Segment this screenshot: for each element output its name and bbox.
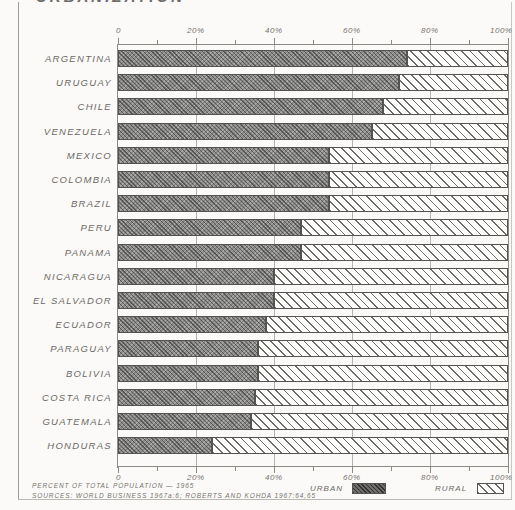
- country-label-panama: PANAMA: [65, 247, 112, 258]
- bar-segment-urban: [118, 365, 258, 382]
- bar-row: [118, 195, 508, 212]
- bar-segment-rural: [329, 147, 508, 164]
- axis-tick: [157, 40, 158, 44]
- bar-row: [118, 219, 508, 236]
- bar-segment-rural: [372, 123, 509, 140]
- country-label-uruguay: URUGUAY: [56, 77, 112, 88]
- axis-tick: [313, 40, 314, 44]
- bar-segment-rural: [258, 365, 508, 382]
- axis-tick-label: 20%: [187, 473, 205, 482]
- bar-row: [118, 268, 508, 285]
- bar-segment-urban: [118, 316, 266, 333]
- bar-segment-rural: [407, 50, 508, 67]
- bar-row: [118, 74, 508, 91]
- country-label-chile: CHILE: [78, 101, 112, 112]
- axis-tick: [313, 467, 314, 471]
- axis-tick-label: 40%: [265, 26, 283, 35]
- bar-segment-rural: [329, 195, 508, 212]
- plot-right-line: [508, 44, 509, 468]
- footer-sources: SOURCES: WORLD BUSINESS 1967a:6; ROBERTS…: [32, 491, 316, 501]
- bar-row: [118, 147, 508, 164]
- country-label-el-salvador: EL SALVADOR: [33, 295, 112, 306]
- chart-footer: PERCENT OF TOTAL POPULATION — 1965 SOURC…: [32, 481, 316, 501]
- bar-segment-urban: [118, 74, 399, 91]
- axis-tick-label: 60%: [343, 473, 361, 482]
- axis-tick: [118, 38, 119, 44]
- axis-tick: [469, 40, 470, 44]
- country-label-honduras: HONDURAS: [47, 440, 112, 451]
- country-label-paraguay: PARAGUAY: [50, 343, 112, 354]
- bar-segment-rural: [383, 98, 508, 115]
- bar-segment-rural: [251, 413, 508, 430]
- bar-row: [118, 98, 508, 115]
- bar-segment-urban: [118, 389, 255, 406]
- country-label-peru: PERU: [80, 222, 112, 233]
- country-label-argentina: ARGENTINA: [45, 53, 112, 64]
- frame-right-rule: [511, 2, 512, 499]
- country-label-guatemala: GUATEMALA: [42, 416, 112, 427]
- axis-tick: [391, 467, 392, 471]
- bar-segment-urban: [118, 413, 251, 430]
- chart-title: URBANIZATION: [36, 0, 185, 2]
- bar-segment-rural: [274, 292, 508, 309]
- bar-segment-rural: [301, 219, 508, 236]
- chart-legend: URBAN RURAL: [310, 479, 510, 495]
- axis-tick: [391, 40, 392, 44]
- bar-segment-urban: [118, 244, 301, 261]
- bar-row: [118, 171, 508, 188]
- bar-segment-rural: [399, 74, 508, 91]
- axis-tick: [469, 467, 470, 471]
- legend-urban-swatch: [352, 483, 386, 494]
- bar-segment-rural: [329, 171, 508, 188]
- country-label-ecuador: ECUADOR: [55, 319, 112, 330]
- bar-segment-rural: [212, 437, 508, 454]
- bar-row: [118, 244, 508, 261]
- bar-segment-urban: [118, 340, 258, 357]
- bar-row: [118, 365, 508, 382]
- axis-tick-label: 0: [116, 473, 121, 482]
- axis-tick-label: 80%: [421, 26, 439, 35]
- country-label-mexico: MEXICO: [67, 150, 112, 161]
- bar-row: [118, 292, 508, 309]
- bar-segment-rural: [258, 340, 508, 357]
- bar-segment-urban: [118, 171, 329, 188]
- bar-row: [118, 437, 508, 454]
- bar-row: [118, 340, 508, 357]
- axis-tick: [508, 38, 509, 44]
- bar-segment-rural: [274, 268, 508, 285]
- axis-tick: [430, 38, 431, 44]
- bar-segment-urban: [118, 268, 274, 285]
- bar-segment-urban: [118, 195, 329, 212]
- bar-row: [118, 413, 508, 430]
- bar-segment-urban: [118, 123, 372, 140]
- bar-segment-urban: [118, 292, 274, 309]
- axis-tick: [235, 40, 236, 44]
- bar-row: [118, 50, 508, 67]
- legend-rural-swatch: [477, 483, 504, 494]
- country-label-bolivia: BOLIVIA: [66, 368, 112, 379]
- plot-area: [118, 50, 508, 462]
- bar-row: [118, 389, 508, 406]
- bar-row: [118, 316, 508, 333]
- country-label-colombia: COLOMBIA: [51, 174, 112, 185]
- bar-segment-urban: [118, 147, 329, 164]
- x-axis-top-line: [118, 44, 509, 45]
- axis-tick-label: 100%: [490, 473, 512, 482]
- axis-tick-label: 40%: [265, 473, 283, 482]
- bar-segment-rural: [266, 316, 508, 333]
- country-label-costa-rica: COSTA RICA: [42, 392, 112, 403]
- axis-tick: [352, 38, 353, 44]
- country-label-column: ARGENTINAURUGUAYCHILEVENEZUELAMEXICOCOLO…: [0, 50, 112, 462]
- axis-tick: [274, 38, 275, 44]
- axis-tick-label: 100%: [490, 26, 512, 35]
- bar-row: [118, 123, 508, 140]
- country-label-venezuela: VENEZUELA: [44, 126, 112, 137]
- footer-caption: PERCENT OF TOTAL POPULATION — 1965: [32, 481, 316, 491]
- axis-tick-label: 60%: [343, 26, 361, 35]
- bar-segment-urban: [118, 50, 407, 67]
- axis-tick: [157, 467, 158, 471]
- axis-tick: [196, 38, 197, 44]
- bar-segment-rural: [255, 389, 509, 406]
- bar-segment-rural: [301, 244, 508, 261]
- axis-tick-label: 80%: [421, 473, 439, 482]
